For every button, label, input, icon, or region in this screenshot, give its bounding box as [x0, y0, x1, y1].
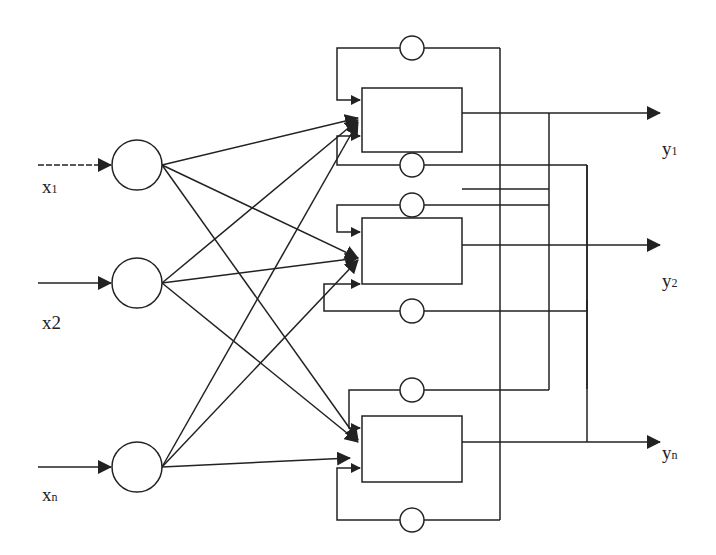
input-nodes [112, 140, 162, 492]
input-node-n [112, 442, 162, 492]
hidden-unit-1 [337, 36, 660, 177]
input-node-2 [112, 258, 162, 308]
weight-connections [162, 118, 358, 467]
feedback-buses [500, 48, 587, 520]
input-label-1: x1 [42, 176, 58, 198]
network-diagram [0, 0, 716, 555]
input-node-1 [112, 140, 162, 190]
input-label-2: x2 [42, 312, 61, 334]
output-label-2: y2 [662, 270, 678, 292]
input-label-n: xn [42, 484, 58, 506]
output-label-1: y1 [662, 138, 678, 160]
output-label-n: yn [662, 442, 678, 464]
hidden-unit-n [337, 378, 660, 532]
